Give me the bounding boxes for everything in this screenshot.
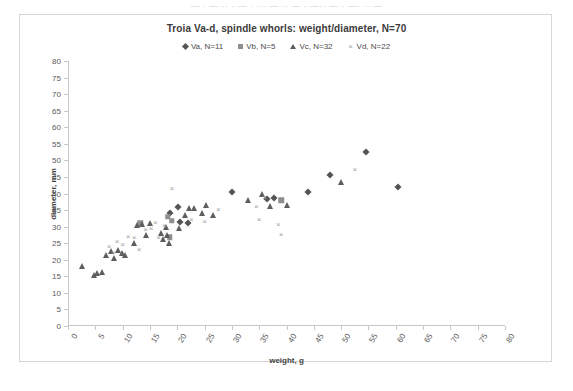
data-point-diamond	[177, 220, 182, 225]
data-point-diamond	[328, 173, 333, 178]
y-axis-tick-label: 80	[39, 57, 61, 66]
data-point-x: ×	[111, 249, 116, 257]
data-point-x: ×	[279, 231, 284, 239]
x-axis-tick-label: 25	[204, 332, 216, 344]
y-axis-tick	[64, 160, 68, 161]
data-point-x: ×	[137, 246, 142, 254]
data-point-triangle	[182, 212, 188, 218]
x-axis-tick	[450, 326, 451, 330]
y-axis-tick-label: 15	[39, 272, 61, 281]
data-point-triangle	[122, 252, 128, 258]
y-axis-tick-label: 0	[39, 322, 61, 331]
data-point-triangle	[203, 202, 209, 208]
y-axis-tick	[64, 309, 68, 310]
y-axis-tick	[64, 94, 68, 95]
y-axis-tick	[64, 243, 68, 244]
chart-title: Troia Va-d, spindle whorls: weight/diame…	[20, 23, 553, 34]
data-point-x: ×	[143, 226, 148, 234]
y-axis-tick	[64, 111, 68, 112]
data-point-x: ×	[126, 233, 131, 241]
data-point-x: ×	[189, 216, 194, 224]
data-point-triangle	[338, 179, 344, 185]
legend-entry-2[interactable]: Vc, N=32	[290, 42, 332, 51]
legend-entry-3[interactable]: ×Vd, N=22	[348, 42, 391, 51]
x-axis-tick	[396, 326, 397, 330]
legend-entry-1[interactable]: Vb, N=5	[238, 42, 275, 51]
legend-marker-diamond	[182, 43, 189, 50]
x-axis-tick	[232, 326, 233, 330]
x-axis-tick	[123, 326, 124, 330]
data-point-diamond	[272, 196, 277, 201]
y-axis-tick-label: 40	[39, 189, 61, 198]
x-axis-tick-label: 5	[97, 332, 107, 341]
x-axis-tick-label: 10	[122, 332, 134, 344]
y-axis-tick-label: 60	[39, 123, 61, 132]
y-axis-tick-label: 55	[39, 139, 61, 148]
chart-legend: Va, N=11Vb, N=5Vc, N=32×Vd, N=22	[20, 42, 553, 51]
data-point-square	[169, 218, 175, 224]
data-point-triangle	[210, 212, 216, 218]
legend-label: Va, N=11	[191, 42, 223, 51]
plot-area: diameter, mm weight, g 05101520253035404…	[68, 61, 505, 326]
data-point-x: ×	[202, 218, 207, 226]
x-axis-tick-label: 20	[177, 332, 189, 344]
y-axis-tick-label: 20	[39, 255, 61, 264]
data-point-triangle	[79, 263, 85, 269]
x-axis-tick-label: 75	[477, 332, 489, 344]
x-axis-tick-label: 30	[231, 332, 243, 344]
y-axis-tick	[64, 177, 68, 178]
data-point-x: ×	[352, 166, 357, 174]
data-point-x: ×	[262, 194, 267, 202]
x-axis-tick	[287, 326, 288, 330]
y-axis-tick-label: 5	[39, 305, 61, 314]
x-axis-tick	[150, 326, 151, 330]
data-point-triangle	[191, 205, 197, 211]
x-axis-tick	[205, 326, 206, 330]
legend-label: Vb, N=5	[246, 42, 275, 51]
y-axis-tick-label: 50	[39, 156, 61, 165]
x-axis-tick	[259, 326, 260, 330]
y-axis-tick-label: 45	[39, 172, 61, 181]
data-point-triangle	[245, 197, 251, 203]
data-point-x: ×	[162, 222, 167, 230]
y-axis-line	[68, 61, 69, 326]
x-axis-tick-label: 55	[368, 332, 380, 344]
x-axis-tick	[314, 326, 315, 330]
data-point-diamond	[176, 204, 181, 209]
x-axis-title: weight, g	[68, 356, 505, 365]
y-axis-tick	[64, 127, 68, 128]
x-axis-tick-label: 60	[395, 332, 407, 344]
data-point-x: ×	[254, 203, 259, 211]
legend-entry-0[interactable]: Va, N=11	[183, 42, 223, 51]
data-point-triangle	[284, 202, 290, 208]
data-point-x: ×	[276, 221, 281, 229]
y-axis-tick	[64, 61, 68, 62]
x-axis-tick-label: 0	[70, 332, 80, 341]
y-axis-tick-label: 75	[39, 73, 61, 82]
data-point-x: ×	[216, 206, 221, 214]
data-point-triangle	[267, 203, 273, 209]
data-point-x: ×	[153, 219, 158, 227]
data-point-triangle	[99, 269, 105, 275]
x-axis-tick-label: 35	[258, 332, 270, 344]
x-axis-tick	[341, 326, 342, 330]
data-point-x: ×	[132, 234, 137, 242]
y-axis-tick-label: 70	[39, 90, 61, 99]
legend-label: Vd, N=22	[357, 42, 391, 51]
x-axis-tick	[505, 326, 506, 330]
data-point-triangle	[166, 240, 172, 246]
chart-container: Troia Va-d, spindle whorls: weight/diame…	[19, 14, 552, 362]
y-axis-tick	[64, 293, 68, 294]
data-point-x: ×	[257, 216, 262, 224]
data-point-triangle	[176, 225, 182, 231]
y-axis-tick	[64, 227, 68, 228]
data-point-triangle	[164, 232, 170, 238]
y-axis-tick	[64, 194, 68, 195]
x-axis-tick-label: 80	[504, 332, 516, 344]
y-axis-tick	[64, 144, 68, 145]
x-axis-tick	[423, 326, 424, 330]
data-point-x: ×	[169, 185, 174, 193]
legend-marker-cross: ×	[348, 44, 354, 50]
x-axis-tick-label: 70	[450, 332, 462, 344]
x-axis-tick-label: 15	[149, 332, 161, 344]
